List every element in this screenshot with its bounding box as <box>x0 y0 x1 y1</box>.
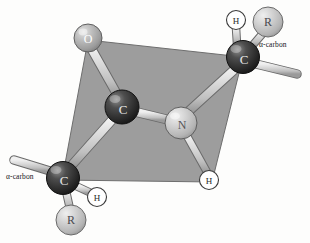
hydrogen-left-label: H <box>94 193 101 203</box>
alpha-carbon-right-annotation: α-carbon <box>259 40 287 49</box>
rgroup-right: R <box>253 7 283 37</box>
alpha-carbon-left-annotation: α-carbon <box>6 172 34 181</box>
atom-alpha-carbon-left: C <box>47 162 80 195</box>
bond-alpha-right-free <box>256 64 297 74</box>
rgroup-left: R <box>56 205 86 235</box>
hydrogen-on-nitrogen: H <box>200 171 219 190</box>
oxygen-label: O <box>84 32 93 46</box>
atom-carbonyl-carbon: C <box>105 90 139 124</box>
rgroup-left-label: R <box>67 213 75 227</box>
alpha-carbon-right-label: C <box>240 52 249 67</box>
nitrogen-label: N <box>178 118 187 132</box>
bond-alpha-left-free <box>14 160 50 171</box>
atom-nitrogen: N <box>165 107 197 139</box>
hydrogen-on-alpha-right: H <box>227 11 246 30</box>
hydrogen-right-label: H <box>233 16 240 26</box>
molecular-diagram-canvas: R R H H H O C <box>0 0 310 243</box>
atom-alpha-carbon-right: C <box>227 41 260 74</box>
hydrogen-on-alpha-left: H <box>88 188 107 207</box>
hydrogen-nitrogen-label: H <box>206 176 213 186</box>
rgroup-right-label: R <box>264 15 272 29</box>
atom-oxygen: O <box>74 24 102 52</box>
alpha-carbon-left-label: C <box>60 173 69 188</box>
carbonyl-carbon-label: C <box>119 102 128 117</box>
peptide-plane-svg: R R H H H O C <box>0 0 310 243</box>
